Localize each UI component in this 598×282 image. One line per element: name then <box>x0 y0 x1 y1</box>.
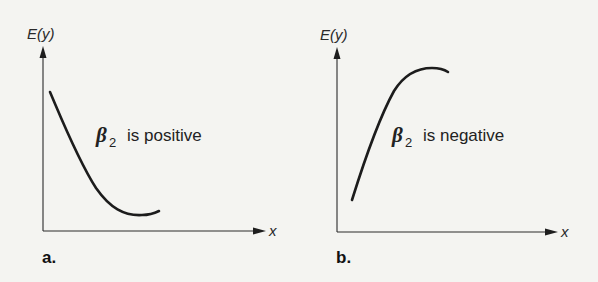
panel-a-label: a. <box>42 248 56 267</box>
panel-b-beta-subscript: 2 <box>405 135 412 150</box>
panel-b-beta-symbol: β <box>391 123 403 147</box>
panel-b: E(y) x β 2 is negative b. <box>320 26 569 267</box>
panel-a-curve <box>50 92 159 215</box>
panel-b-y-axis-label: E(y) <box>320 26 348 43</box>
panel-a-beta-subscript: 2 <box>109 135 116 150</box>
panel-a-x-axis-arrow-icon <box>253 228 266 235</box>
panel-b-x-axis-arrow-icon <box>545 229 558 236</box>
panel-a-annotation-text: is positive <box>127 126 202 145</box>
panel-a-beta-symbol: β <box>95 123 107 147</box>
quadratic-curvature-figure: E(y) x β 2 is positive a. E(y) x β 2 is … <box>0 0 598 282</box>
panel-b-x-axis-label: x <box>560 223 569 240</box>
panel-b-label: b. <box>336 248 351 267</box>
panel-a-annotation: β 2 is positive <box>95 123 202 150</box>
panel-a-y-axis-label: E(y) <box>27 25 55 42</box>
panel-b-y-axis-arrow-icon <box>334 47 341 59</box>
panel-a-x-axis-label: x <box>268 222 277 239</box>
panel-b-annotation-text: is negative <box>423 126 504 145</box>
panel-b-annotation: β 2 is negative <box>391 123 504 150</box>
panel-a-y-axis-arrow-icon <box>40 46 47 58</box>
panel-a: E(y) x β 2 is positive a. <box>27 25 277 267</box>
